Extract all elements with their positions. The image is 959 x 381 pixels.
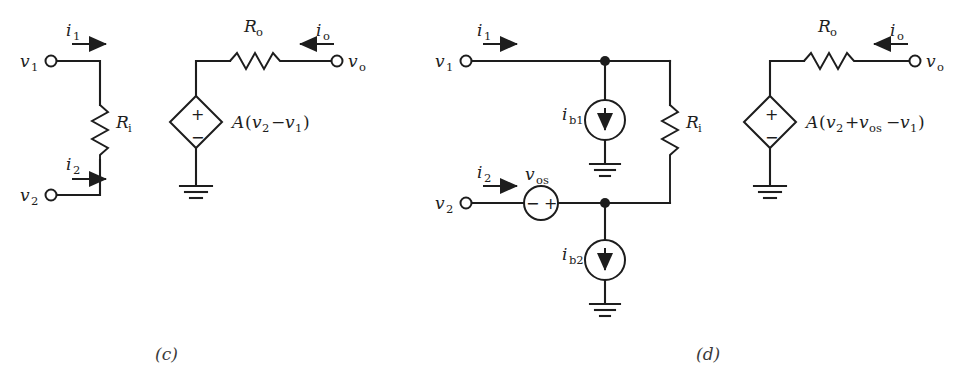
label-vo-c: v bbox=[348, 51, 358, 71]
label-ro-d: R bbox=[817, 16, 831, 36]
terminal-v2-d[interactable] bbox=[461, 198, 472, 209]
source-plus-d: + bbox=[765, 105, 778, 124]
source-plus-c: + bbox=[191, 105, 204, 124]
label-v1-sub-d: 1 bbox=[446, 60, 453, 74]
label-vo-sub-c: o bbox=[359, 60, 366, 74]
caption-d: (d) bbox=[696, 344, 720, 364]
terminal-v1-d[interactable] bbox=[461, 56, 472, 67]
label-ib2-d: i bbox=[562, 244, 567, 264]
circuit-c: v 1 i 1 R i i 2 v 2 + − A ( v 2 − bbox=[20, 16, 366, 208]
expr-term1-d: v bbox=[826, 112, 836, 132]
label-io-d: i bbox=[890, 20, 895, 40]
label-ro-sub-d: o bbox=[830, 25, 837, 39]
label-v1-d: v bbox=[435, 51, 445, 71]
expr-gain-d: A bbox=[804, 112, 818, 132]
label-v2-sub-d: 2 bbox=[446, 202, 453, 216]
expr-op2-d: − bbox=[886, 112, 900, 132]
expr-open-d: ( bbox=[819, 112, 826, 132]
ground-symbol-c bbox=[180, 186, 212, 198]
label-v1-c: v bbox=[20, 51, 30, 71]
label-ro-sub-c: o bbox=[256, 25, 263, 39]
label-i1-d: i bbox=[477, 20, 482, 40]
expr-op1-d: + bbox=[845, 112, 859, 132]
resistor-ri-c bbox=[92, 105, 108, 160]
label-ib1-d: i bbox=[562, 104, 567, 124]
circuit-figure: v 1 i 1 R i i 2 v 2 + − A ( v 2 − bbox=[0, 0, 959, 381]
label-i2-c: i bbox=[66, 154, 71, 174]
expr-gain-c: A bbox=[230, 112, 244, 132]
expr-op-c: − bbox=[271, 112, 285, 132]
ground-symbol-source-d bbox=[754, 186, 786, 198]
expr-term2-d: v bbox=[859, 112, 869, 132]
expr-close-d: ) bbox=[918, 112, 925, 132]
source-minus-d: − bbox=[765, 128, 778, 147]
label-ri-sub-c: i bbox=[128, 121, 132, 135]
resistor-ro-c bbox=[230, 53, 290, 69]
label-ri-sub-d: i bbox=[698, 121, 702, 135]
label-vo-sub-d: o bbox=[937, 60, 944, 74]
label-vos-sub-d: os bbox=[536, 173, 549, 187]
wire-source-to-ro-c bbox=[196, 61, 230, 96]
wire-v1-to-ri-c bbox=[57, 61, 100, 105]
label-v2-d: v bbox=[435, 193, 445, 213]
label-io-sub-c: o bbox=[323, 29, 330, 43]
label-i1-sub-d: 1 bbox=[484, 29, 491, 43]
circuit-d: v 1 i 1 i b1 R i − + v bbox=[435, 16, 944, 316]
expr-term2-sub-d: os bbox=[869, 121, 882, 135]
label-vo-d: v bbox=[926, 51, 936, 71]
label-vos-d: v bbox=[525, 164, 535, 184]
terminal-v2-c[interactable] bbox=[46, 190, 57, 201]
label-ri-c: R bbox=[115, 112, 129, 132]
terminal-vo-d[interactable] bbox=[910, 56, 921, 67]
label-i1-c: i bbox=[66, 20, 71, 40]
label-ib1-sub-d: b1 bbox=[569, 113, 584, 127]
label-io-sub-d: o bbox=[897, 29, 904, 43]
label-i1-sub-c: 1 bbox=[73, 29, 80, 43]
ground-symbol-ib1-d bbox=[590, 164, 620, 176]
expr-term1-c: v bbox=[252, 112, 262, 132]
label-v2-sub-c: 2 bbox=[31, 194, 38, 208]
source-expression-d: A ( v 2 + v os − v 1 ) bbox=[804, 112, 925, 135]
label-i2-d: i bbox=[477, 162, 482, 182]
expr-term1-sub-c: 2 bbox=[262, 121, 269, 135]
label-ro-c: R bbox=[243, 16, 257, 36]
label-i2-sub-d: 2 bbox=[484, 171, 491, 185]
expr-term3-sub-d: 1 bbox=[910, 121, 917, 135]
label-i2-sub-c: 2 bbox=[73, 163, 80, 177]
expr-term2-c: v bbox=[285, 112, 295, 132]
label-v2-c: v bbox=[20, 185, 30, 205]
label-ri-d: R bbox=[685, 112, 699, 132]
expr-close-c: ) bbox=[303, 112, 310, 132]
label-io-c: i bbox=[316, 20, 321, 40]
label-v1-sub-c: 1 bbox=[31, 60, 38, 74]
vos-minus-d: − bbox=[526, 194, 539, 213]
vos-plus-d: + bbox=[544, 194, 557, 213]
terminal-vo-c[interactable] bbox=[332, 56, 343, 67]
terminal-v1-c[interactable] bbox=[46, 56, 57, 67]
caption-c: (c) bbox=[155, 344, 178, 364]
expr-term3-d: v bbox=[900, 112, 910, 132]
label-ib2-sub-d: b2 bbox=[569, 253, 584, 267]
expr-term1-sub-d: 2 bbox=[836, 121, 843, 135]
ground-symbol-ib2-d bbox=[590, 304, 620, 316]
source-minus-c: − bbox=[191, 128, 204, 147]
resistor-ro-d bbox=[804, 53, 864, 69]
wire-source-to-ro-d bbox=[770, 61, 804, 96]
expr-term2-sub-c: 1 bbox=[295, 121, 302, 135]
expr-open-c: ( bbox=[245, 112, 252, 132]
source-expression-c: A ( v 2 − v 1 ) bbox=[230, 112, 310, 135]
resistor-ri-d bbox=[662, 105, 678, 203]
